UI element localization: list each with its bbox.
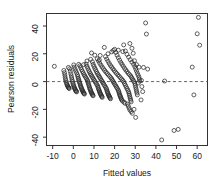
- data-point: [132, 107, 136, 111]
- data-point: [141, 90, 145, 94]
- data-point: [123, 101, 127, 105]
- y-axis-tick-labels: -40-2002040: [31, 24, 41, 146]
- data-point: [122, 43, 126, 47]
- data-point: [146, 67, 150, 71]
- data-point: [134, 115, 138, 119]
- data-point: [52, 64, 56, 68]
- data-point: [198, 43, 202, 47]
- data-point: [172, 128, 176, 132]
- x-tick-label: 50: [172, 151, 182, 161]
- x-axis-title: Fitted values: [103, 168, 151, 178]
- y-axis-title: Pearson residuals: [6, 45, 16, 113]
- data-point: [116, 48, 120, 52]
- data-point: [139, 98, 143, 102]
- data-point: [196, 15, 200, 19]
- data-point: [130, 46, 134, 50]
- data-point: [190, 65, 194, 69]
- x-tick-label: 30: [131, 151, 141, 161]
- x-tick-label: 60: [192, 151, 202, 161]
- x-tick-label: 10: [89, 151, 99, 161]
- y-tick-label: 0: [31, 82, 41, 87]
- data-point: [163, 79, 167, 83]
- x-axis-ticks: [53, 146, 197, 150]
- data-point: [137, 65, 141, 69]
- y-tick-label: 40: [31, 24, 41, 34]
- data-point: [192, 93, 196, 97]
- data-point: [102, 45, 106, 49]
- y-axis-ticks: [43, 26, 47, 137]
- scatter-plot-figure: -100102030405060 -40-2002040 Fitted valu…: [0, 0, 221, 193]
- data-point: [82, 63, 86, 67]
- data-point: [128, 42, 132, 46]
- data-point: [140, 85, 144, 89]
- x-tick-label: 0: [71, 151, 76, 161]
- data-point: [144, 32, 148, 36]
- x-tick-label: -10: [47, 151, 60, 161]
- data-point: [176, 127, 180, 131]
- plot-canvas: -100102030405060 -40-2002040 Fitted valu…: [0, 0, 221, 193]
- data-point: [106, 52, 110, 56]
- data-point: [195, 32, 199, 36]
- y-tick-label: -40: [31, 134, 41, 147]
- data-points: [52, 15, 201, 142]
- y-tick-label: 20: [31, 52, 41, 62]
- data-point: [160, 138, 164, 142]
- y-tick-label: -20: [31, 106, 41, 119]
- data-point: [121, 50, 125, 54]
- data-point: [144, 21, 148, 25]
- data-point: [98, 53, 102, 57]
- data-point: [93, 53, 97, 57]
- x-tick-label: 20: [110, 151, 120, 161]
- x-tick-label: 40: [151, 151, 161, 161]
- x-axis-tick-labels: -100102030405060: [47, 151, 203, 161]
- data-point: [142, 65, 146, 69]
- data-point: [131, 51, 135, 55]
